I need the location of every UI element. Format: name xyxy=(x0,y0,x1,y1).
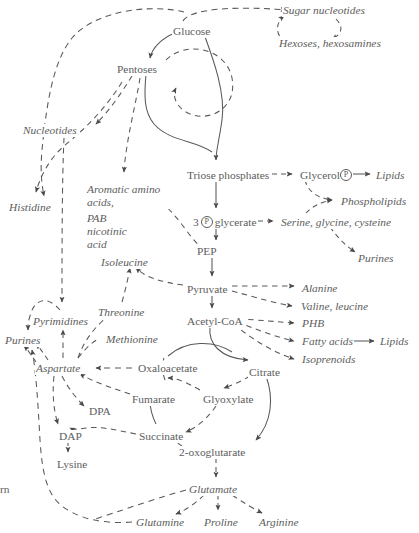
edge-pentoses-triose xyxy=(145,74,212,152)
node-dap[interactable]: DAP xyxy=(58,430,83,443)
node-glyoxylate[interactable]: Glyoxylate xyxy=(202,393,255,406)
glycerate-label: glycerate xyxy=(215,216,257,228)
node-phb[interactable]: PHB xyxy=(301,317,325,330)
phosphate-circle-icon: P xyxy=(201,216,213,228)
node-hexoses-hexosamines[interactable]: Hexoses, hexosamines xyxy=(278,37,382,50)
node-purines-left[interactable]: Purines xyxy=(4,334,41,347)
edge-nucleotides-pyrimidines xyxy=(62,138,64,302)
node-glutamate[interactable]: Glutamate xyxy=(188,483,238,496)
node-oxaloacetate[interactable]: Oxaloacetate xyxy=(137,362,198,375)
node-aspartate[interactable]: Aspartate xyxy=(35,362,81,375)
edge-aspartate-dap xyxy=(53,376,58,424)
node-pab-nicotinic-acid[interactable]: PAB nicotinic acid xyxy=(86,212,148,251)
node-triose-phosphates[interactable]: Triose phosphates xyxy=(186,169,270,182)
glycerate-prefix: 3 xyxy=(193,216,199,228)
node-2-oxoglutarate[interactable]: 2-oxoglutarate xyxy=(178,446,246,459)
edge-pentoses-aromatic xyxy=(124,78,140,172)
node-pep[interactable]: PEP xyxy=(196,245,218,258)
edge-glyoxylate-oxaloacetate xyxy=(168,378,200,390)
node-glucose[interactable]: Glucose xyxy=(172,25,211,38)
node-sugar-nucleotides[interactable]: Sugar nucleotides xyxy=(282,4,366,17)
node-fumarate[interactable]: Fumarate xyxy=(131,393,176,406)
edge-sugarnuc-hexoses xyxy=(332,19,341,39)
node-fatty-acids[interactable]: Fatty acids xyxy=(301,335,354,348)
edge-serine-phospholipids xyxy=(306,200,332,213)
node-succinate[interactable]: Succinate xyxy=(138,430,184,443)
node-proline[interactable]: Proline xyxy=(203,516,239,529)
node-pentoses[interactable]: Pentoses xyxy=(116,63,158,76)
node-isoleucine[interactable]: Isoleucine xyxy=(100,256,149,269)
node-glutamine[interactable]: Glutamine xyxy=(135,516,185,529)
node-histidine[interactable]: Histidine xyxy=(8,201,52,214)
node-lysine[interactable]: Lysine xyxy=(56,458,88,471)
node-dpa[interactable]: DPA xyxy=(88,405,112,418)
edge-pyruvate-isoleucine xyxy=(136,268,183,285)
edge-glycerol-phospholipids xyxy=(305,180,332,200)
edge-glyoxylate-succinate xyxy=(186,406,216,432)
node-lipids-right[interactable]: Lipids xyxy=(379,335,410,348)
phosphate-circle-icon: P xyxy=(340,169,352,181)
node-arginine[interactable]: Arginine xyxy=(258,516,299,529)
edge-aspartate-purines2 xyxy=(24,346,36,362)
node-citrate[interactable]: Citrate xyxy=(248,366,281,379)
node-isoprenoids[interactable]: Isoprenoids xyxy=(301,353,356,366)
cropped-text-fragment: rn xyxy=(0,483,10,495)
edge-glucose-triose xyxy=(204,34,223,160)
node-nucleotides[interactable]: Nucleotides xyxy=(22,124,78,137)
node-glycerol-label: Glycerol xyxy=(300,169,340,181)
node-3-phosphoglycerate[interactable]: 3Pglycerate xyxy=(192,216,257,229)
edge-threonine-isoleucine xyxy=(122,268,130,302)
edge-oxaloacetate-citrate xyxy=(168,343,232,356)
pathway-diagram: Sugar nucleotides Hexoses, hexosamines G… xyxy=(0,0,419,533)
node-alanine[interactable]: Alanine xyxy=(301,282,338,295)
node-pyrimidines[interactable]: Pyrimidines xyxy=(32,315,89,328)
edge-glucose-sugar-nucleotides xyxy=(183,8,286,21)
node-acetyl-coa[interactable]: Acetyl-CoA xyxy=(186,315,244,328)
edge-pyruvate-valine xyxy=(232,291,292,306)
node-pyruvate[interactable]: Pyruvate xyxy=(186,283,229,296)
edge-acetylcoa-fatty xyxy=(237,322,294,341)
edge-acetylcoa-isoprenoids xyxy=(233,324,294,359)
edge-aspartate-dpa xyxy=(62,376,84,406)
node-threonine[interactable]: Threonine xyxy=(97,306,145,319)
edge-pentoses-nucleotides xyxy=(96,76,132,124)
node-phospholipids[interactable]: Phospholipids xyxy=(340,195,407,208)
edge-citrate-glyoxylate xyxy=(224,376,250,388)
node-glycerol-phosphate[interactable]: GlycerolP xyxy=(299,169,353,182)
edge-glutamate-arginine xyxy=(232,495,262,513)
node-aromatic-amino-acids[interactable]: Aromatic amino acids, xyxy=(86,183,172,209)
edge-fumarate-aspartate xyxy=(80,374,130,394)
node-methionine[interactable]: Methionine xyxy=(105,333,159,346)
edge-to-histidine xyxy=(36,82,122,192)
edge-glutamate-glutamine xyxy=(176,495,204,514)
node-purines-right[interactable]: Purines xyxy=(357,252,394,265)
edge-serine-purines xyxy=(330,227,355,252)
edge-citrate-oxoglutarate xyxy=(256,376,271,440)
node-valine-leucine[interactable]: Valine, leucine xyxy=(300,300,369,313)
node-lipids-top[interactable]: Lipids xyxy=(375,169,406,182)
node-serine-glycine-cysteine[interactable]: Serine, glycine, cysteine xyxy=(280,216,392,229)
edge-aspartate-methionine xyxy=(78,338,100,358)
edge-acetylcoa-phb xyxy=(238,319,294,323)
